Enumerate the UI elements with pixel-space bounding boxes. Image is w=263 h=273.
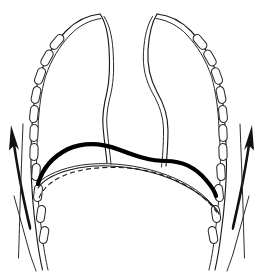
rib-marker: [191, 33, 208, 51]
thorax-diagram-figure: [0, 0, 263, 273]
rib-marker: [39, 49, 54, 68]
rib-marker: [219, 143, 228, 160]
diaphragm-mid-thin-path: [38, 166, 219, 214]
rib-marker: [210, 67, 223, 86]
lung-outlines-group: [31, 14, 227, 270]
rib-marker: [36, 205, 46, 223]
rib-marker: [218, 105, 228, 123]
rib-marker: [202, 49, 217, 68]
ribs-right-group: [191, 33, 227, 244]
rib-marker: [29, 105, 39, 123]
rib-marker: [39, 226, 50, 244]
rib-cage-group: [29, 33, 228, 244]
rib-marker: [48, 33, 65, 51]
left-mediastinal-border-inner-path: [104, 17, 114, 165]
rib-marker: [30, 124, 39, 141]
diaphragm-group: [38, 144, 219, 215]
thorax-diagram-canvas: [0, 0, 263, 273]
diaphragm-depressed-dashed-path: [39, 167, 218, 215]
right-lung-outline-inner-path: [156, 19, 221, 168]
rib-marker: [33, 184, 43, 202]
rib-marker: [219, 124, 228, 141]
rib-marker: [33, 67, 46, 86]
rib-marker: [211, 205, 221, 223]
right-mediastinal-border-inner-path: [143, 17, 163, 168]
rib-marker: [30, 143, 39, 160]
rib-marker: [208, 226, 219, 244]
ribs-left-group: [29, 33, 65, 244]
rib-marker: [216, 163, 225, 181]
